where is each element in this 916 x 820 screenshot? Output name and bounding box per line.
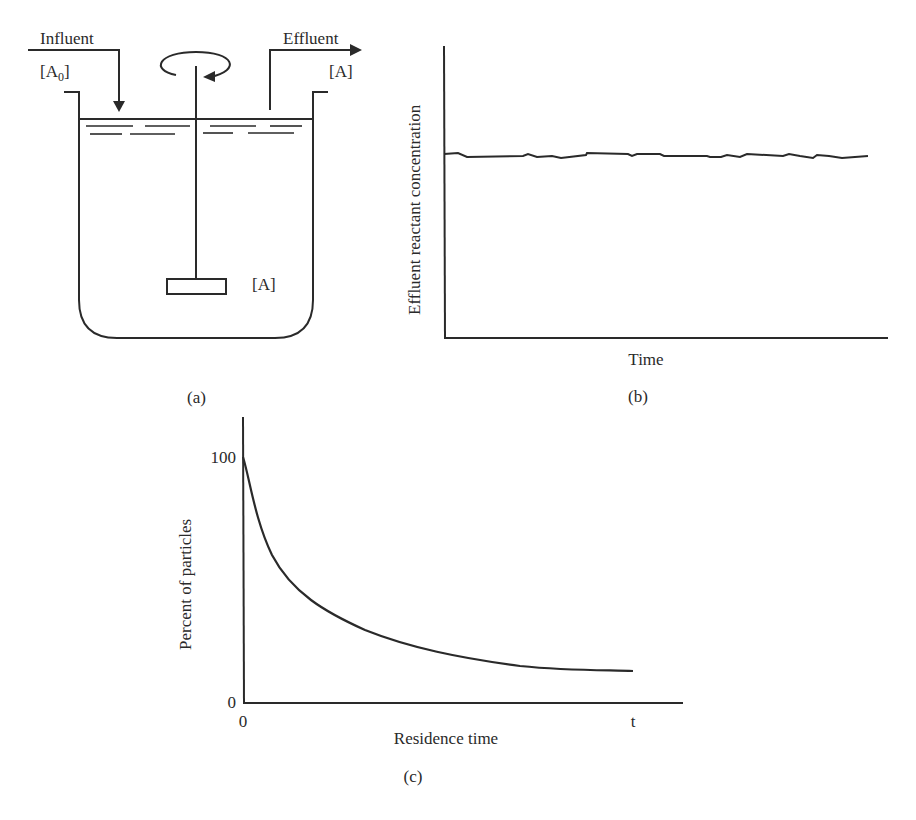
- panel-a-tank-diagram: [28, 44, 362, 338]
- panel-a-caption: (a): [187, 388, 206, 407]
- panel-c-x-tick-t: t: [631, 712, 636, 731]
- panel-c-y-tick-100: 100: [211, 448, 237, 467]
- impeller-blade: [167, 279, 226, 294]
- influent-arrow-icon: [113, 101, 125, 112]
- panel-c-x-axis-label: Residence time: [394, 729, 498, 748]
- panel-b-y-axis-label: Effluent reactant concentration: [405, 104, 424, 315]
- panel-b-chart: Effluent reactant concentration Time (b): [405, 46, 888, 406]
- effluent-label: Effluent: [283, 29, 339, 48]
- tank-concentration-label: [A]: [252, 275, 276, 294]
- effluent-concentration-label: [A]: [329, 62, 353, 81]
- figure: Influent [A0] Effluent [A] [A] (a) Efflu…: [0, 0, 916, 820]
- panel-c-y-axis-label: Percent of particles: [176, 519, 195, 650]
- panel-b-caption: (b): [628, 387, 648, 406]
- influent-concentration-label: [A0]: [40, 62, 70, 84]
- panel-c-y-tick-0: 0: [228, 693, 237, 712]
- panel-b-x-axis-label: Time: [628, 350, 663, 369]
- panel-b-y-axis: [444, 46, 445, 338]
- effluent-arrow-icon: [350, 44, 362, 56]
- panel-c-x-tick-0: 0: [239, 712, 248, 731]
- panel-b-concentration-line: [444, 153, 868, 158]
- panel-c-caption: (c): [404, 767, 423, 786]
- panel-c-decay-curve: [243, 457, 633, 671]
- panel-c-chart: 100 0 0 t Percent of particles Residence…: [176, 417, 683, 786]
- liquid-ripples: [86, 126, 302, 134]
- influent-label: Influent: [40, 29, 94, 48]
- rotation-arrowhead-icon: [203, 71, 215, 82]
